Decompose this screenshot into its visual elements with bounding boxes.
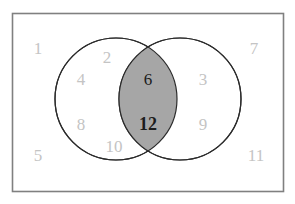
venn-number-9: 9	[199, 116, 208, 133]
venn-number-2: 2	[103, 49, 112, 66]
venn-diagram-canvas	[0, 0, 295, 204]
venn-number-7: 7	[250, 40, 259, 57]
venn-number-1: 1	[34, 40, 43, 57]
venn-number-8: 8	[77, 116, 86, 133]
venn-number-12: 12	[139, 115, 157, 133]
venn-number-4: 4	[77, 71, 86, 88]
venn-number-3: 3	[199, 71, 208, 88]
venn-diagram-figure: 124810561239711	[0, 0, 295, 204]
venn-number-6: 6	[144, 71, 153, 88]
venn-number-5: 5	[34, 147, 43, 164]
venn-number-10: 10	[106, 138, 123, 155]
venn-number-11: 11	[248, 147, 264, 164]
